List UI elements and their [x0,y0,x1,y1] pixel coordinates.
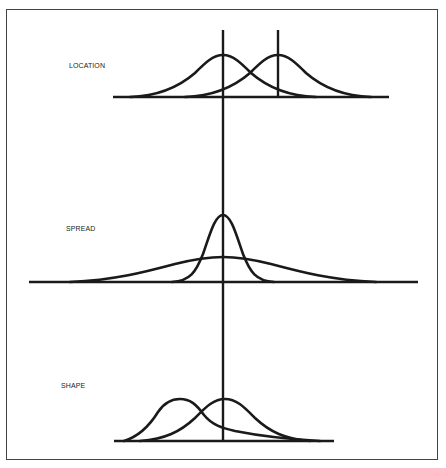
distribution-diagram [0,0,446,468]
location-panel [113,30,389,97]
